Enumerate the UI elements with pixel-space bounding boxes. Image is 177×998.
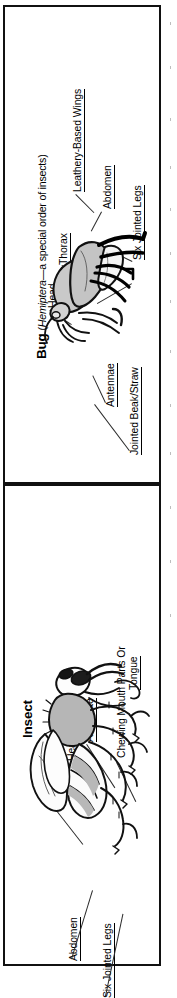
label-bug-abdomen: Abdomen (103, 165, 115, 209)
leader-bug-antennae (92, 375, 106, 403)
label-insect-abdomen: Abdomen (69, 917, 81, 961)
margin-tick-dot (170, 350, 171, 353)
illustration-bug (39, 213, 159, 343)
margin-tick-dot (170, 560, 171, 563)
panel-bug: Bug (Hemiptera—a special order of insect… (3, 5, 161, 484)
margin-tick-dot (170, 118, 171, 121)
margin-tick-dot (170, 300, 171, 303)
panel-insect-title: Insect (21, 700, 35, 738)
leader-bug-beak (94, 404, 130, 451)
margin-tick-dot (170, 166, 171, 169)
leader-bug-wings (75, 194, 94, 213)
illustration-insect (39, 638, 161, 868)
label-bug-jointed-beak-straw: Jointed Beak/Straw (130, 367, 142, 455)
margin-tick-dot (170, 252, 171, 255)
margin-tick-dot (170, 452, 171, 455)
margin-tick-dot (170, 614, 171, 617)
margin-tick-dot (170, 208, 171, 211)
label-bug-antennae: Antennae (106, 363, 118, 407)
margin-tick-dot (170, 22, 171, 25)
margin-tick-dot (170, 506, 171, 509)
panel-insect: Insect Thorax Head Antennae Chewing Mout… (3, 484, 161, 966)
margin-tick-dot (170, 66, 171, 69)
label-bug-leathery-based-wings: Leathery-Based Wings (73, 89, 85, 192)
margin-tick-dot (170, 404, 171, 407)
